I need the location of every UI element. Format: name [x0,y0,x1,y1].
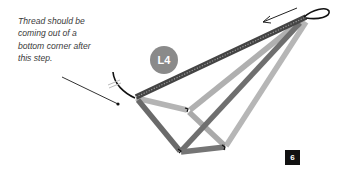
bead-mid-center [182,23,300,150]
bead-light-far [226,22,306,146]
thread-loop [304,9,329,19]
step-number-badge: 6 [285,150,300,165]
step-label-badge: L4 [150,46,178,74]
thread-exit [108,72,135,98]
pointer-line [62,77,120,106]
